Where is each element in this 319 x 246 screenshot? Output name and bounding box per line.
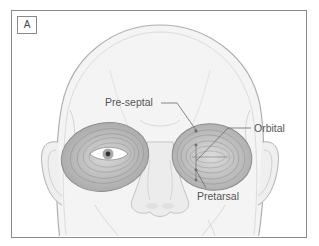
label-orbital: Orbital [254,122,285,134]
label-pre-septal: Pre-septal [105,96,153,108]
label-pretarsal: Pretarsal [197,190,239,202]
panel-label: A [17,16,37,34]
